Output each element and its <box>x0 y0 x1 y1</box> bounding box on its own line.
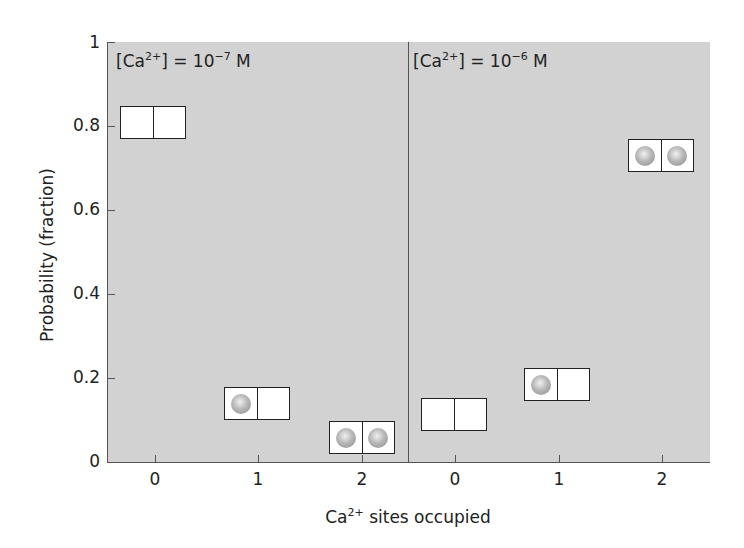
y-tick-label: 0 <box>40 452 100 470</box>
panel-label-high-calcium: [Ca2+] = 10−6 M <box>413 50 548 71</box>
empty-site <box>257 388 290 419</box>
calcium-ion-icon <box>635 146 655 166</box>
x-tick-label: 2 <box>352 469 372 489</box>
x-tick-label: 0 <box>445 469 465 489</box>
calcium-ion-icon <box>336 428 356 448</box>
y-tick-label: 0.8 <box>40 116 100 134</box>
panel-divider <box>408 42 409 462</box>
occupied-site <box>661 140 694 171</box>
occupied-site <box>225 388 257 419</box>
y-tick <box>107 126 115 127</box>
y-tick-label: 0.2 <box>40 368 100 386</box>
y-tick <box>107 42 115 43</box>
x-tick <box>559 455 560 462</box>
state-marker-2-sites-low <box>329 421 395 454</box>
x-tick-label: 1 <box>549 469 569 489</box>
calcium-ion-icon <box>368 428 388 448</box>
occupied-site <box>330 422 362 453</box>
y-axis-title: Probability (fraction) <box>37 168 57 342</box>
x-axis-title: Ca2+ sites occupied <box>325 506 491 527</box>
x-tick <box>258 455 259 462</box>
x-tick-label: 2 <box>652 469 672 489</box>
x-tick-label: 1 <box>248 469 268 489</box>
occupied-site <box>629 140 661 171</box>
x-tick <box>455 455 456 462</box>
x-axis-line <box>107 462 710 463</box>
x-tick-label: 0 <box>145 469 165 489</box>
state-marker-1-site-low <box>224 387 290 420</box>
y-tick <box>107 462 115 463</box>
state-marker-0-sites-low <box>120 106 186 139</box>
calcium-ion-icon <box>667 146 687 166</box>
state-marker-1-site-high <box>524 368 590 401</box>
occupied-site <box>362 422 395 453</box>
y-tick <box>107 294 115 295</box>
x-tick <box>155 455 156 462</box>
empty-site <box>454 399 487 430</box>
state-marker-0-sites-high <box>421 398 487 431</box>
x-tick <box>662 455 663 462</box>
occupied-site <box>525 369 557 400</box>
empty-site <box>153 107 186 138</box>
panel-label-low-calcium: [Ca2+] = 10−7 M <box>116 50 251 71</box>
state-marker-2-sites-high <box>628 139 694 172</box>
y-tick-label: 1 <box>40 33 100 51</box>
y-axis-line <box>107 42 108 463</box>
empty-site <box>422 399 454 430</box>
y-tick <box>107 378 115 379</box>
calcium-ion-icon <box>231 394 251 414</box>
x-tick <box>362 455 363 462</box>
y-tick <box>107 210 115 211</box>
empty-site <box>557 369 590 400</box>
empty-site <box>121 107 153 138</box>
calcium-ion-icon <box>531 375 551 395</box>
